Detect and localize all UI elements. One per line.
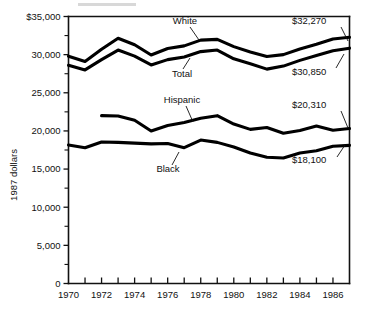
value-label-white: $32,270 xyxy=(292,15,326,26)
y-tick-label: 10,000 xyxy=(31,202,60,213)
x-tick-label: 1984 xyxy=(289,289,310,300)
x-tick-label: 1970 xyxy=(58,289,79,300)
x-tick-label: 1974 xyxy=(124,289,145,300)
y-axis-title: 1987 dollars xyxy=(8,149,19,201)
y-tick-label: 25,000 xyxy=(31,87,60,98)
y-tick-label: 0 xyxy=(55,278,60,289)
series-label-black: Black xyxy=(156,163,179,174)
series-label-white: White xyxy=(173,15,197,26)
chart-canvas: 05,00010,00015,00020,00025,00030,000$35,… xyxy=(0,0,365,312)
x-tick-label: 1980 xyxy=(223,289,244,300)
x-tick-label: 1982 xyxy=(256,289,277,300)
leader-line-white xyxy=(190,27,199,40)
y-tick-label: 30,000 xyxy=(31,49,60,60)
value-label-black: $18,100 xyxy=(292,154,326,165)
y-axis-tick-labels: 05,00010,00015,00020,00025,00030,000$35,… xyxy=(26,11,60,289)
x-axis-ticks xyxy=(85,278,333,284)
x-tick-label: 1986 xyxy=(322,289,343,300)
series-line-hispanic xyxy=(102,116,350,134)
income-line-chart: 05,00010,00015,00020,00025,00030,000$35,… xyxy=(0,0,365,312)
x-tick-label: 1972 xyxy=(91,289,112,300)
series-label-total: Total xyxy=(172,68,192,79)
x-tick-label: 1978 xyxy=(190,289,211,300)
y-tick-label: 5,000 xyxy=(37,240,61,251)
y-tick-label: $35,000 xyxy=(26,11,60,22)
leader-line-total-value xyxy=(336,54,344,68)
x-axis-tick-labels: 197019721974197619781980198219841986 xyxy=(58,289,344,300)
y-tick-label: 15,000 xyxy=(31,163,60,174)
series-label-hispanic: Hispanic xyxy=(164,94,201,105)
y-tick-label: 20,000 xyxy=(31,125,60,136)
x-tick-label: 1976 xyxy=(157,289,178,300)
leader-line-hispanic-value xyxy=(341,111,348,128)
value-label-hispanic: $20,310 xyxy=(292,99,326,110)
value-label-total: $30,850 xyxy=(292,66,326,77)
